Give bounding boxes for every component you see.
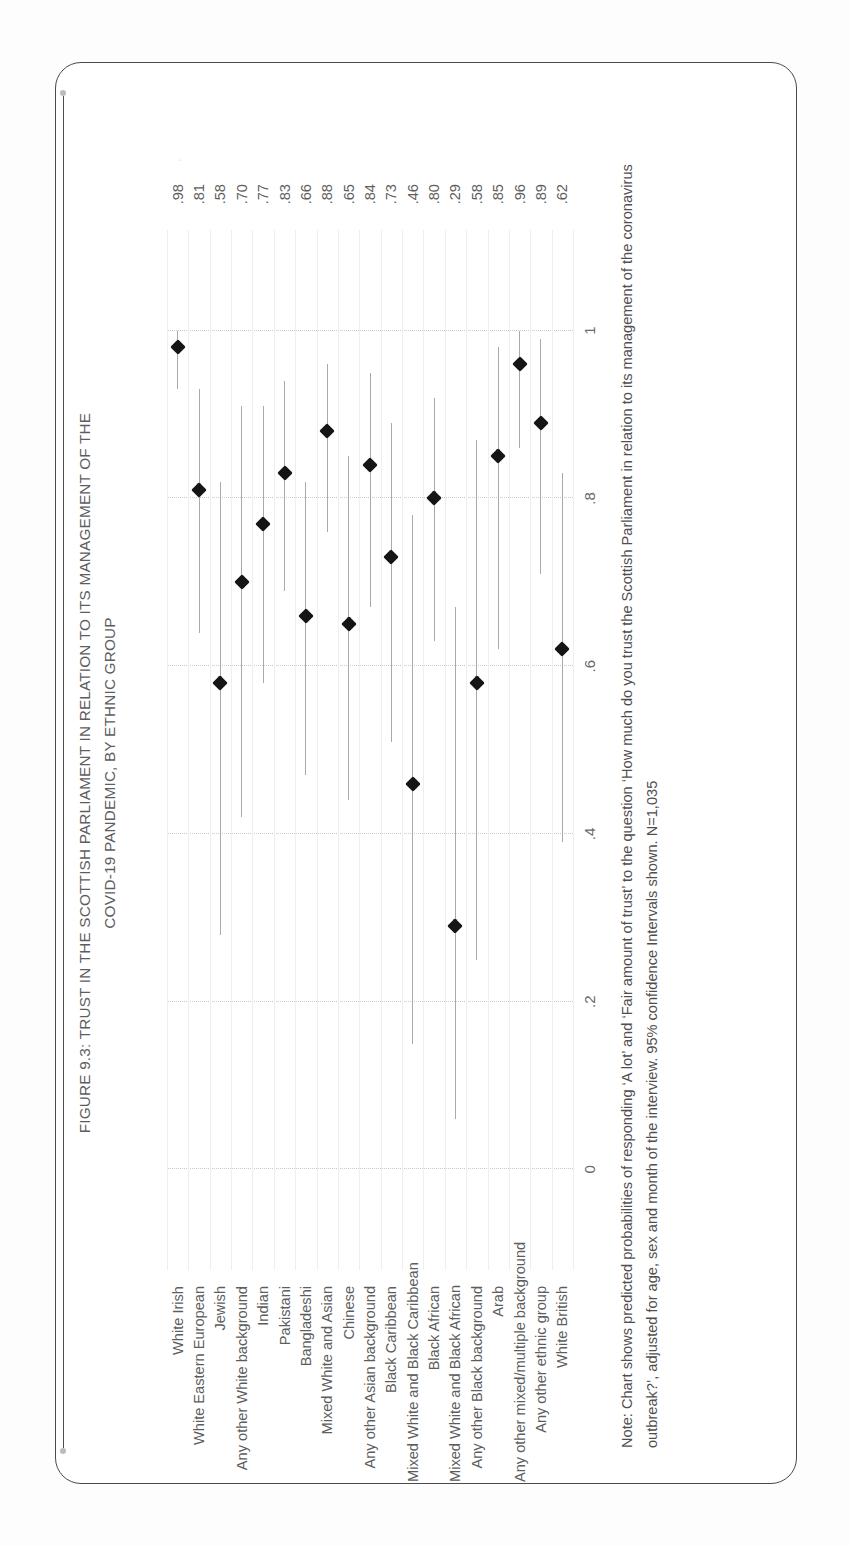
category-value-label: .96	[512, 184, 528, 224]
data-point-marker	[213, 675, 229, 691]
data-point-marker	[341, 616, 357, 632]
category-separator	[573, 230, 574, 1270]
category-label: White Eastern European	[191, 1286, 207, 1482]
category-value-label: .80	[426, 184, 442, 224]
confidence-interval	[498, 347, 499, 649]
data-point-marker	[362, 457, 378, 473]
data-point-marker	[426, 491, 442, 507]
category-value-label: .66	[298, 184, 314, 224]
category-value-label: .98	[170, 184, 186, 224]
gridline-.6	[167, 665, 573, 666]
category-label: Pakistani	[277, 1286, 293, 1482]
category-value-label: .58	[212, 184, 228, 224]
category-separator	[317, 230, 318, 1270]
page-corner-mark: ·	[173, 158, 185, 162]
category-label: Mixed White and Asian	[319, 1286, 335, 1482]
figure-title: FIGURE 9.3: TRUST IN THE SCOTTISH PARLIA…	[73, 98, 123, 1448]
rotated-figure-stage: FIGURE 9.3: TRUST IN THE SCOTTISH PARLIA…	[55, 62, 795, 1482]
category-label: Black Caribbean	[383, 1286, 399, 1482]
category-value-label: .65	[341, 184, 357, 224]
category-separator	[252, 230, 253, 1270]
data-point-marker	[384, 549, 400, 565]
category-label: Any other mixed/multiple background	[512, 1286, 528, 1482]
category-separator	[402, 230, 403, 1270]
confidence-interval	[519, 331, 520, 448]
figure-title-line1: FIGURE 9.3: TRUST IN THE SCOTTISH PARLIA…	[73, 98, 98, 1448]
category-value-label: .85	[490, 184, 506, 224]
category-separator	[274, 230, 275, 1270]
category-separator	[188, 230, 189, 1270]
confidence-interval	[476, 440, 477, 960]
data-point-marker	[533, 415, 549, 431]
confidence-interval	[562, 473, 563, 842]
category-value-label: .70	[234, 184, 250, 224]
confidence-interval	[305, 482, 306, 776]
axis-tick-label: 0	[581, 1165, 598, 1173]
category-value-label: .73	[383, 184, 399, 224]
confidence-interval	[241, 406, 242, 817]
gridline-.4	[167, 833, 573, 834]
bullet-dot-left-icon	[60, 1448, 66, 1454]
category-value-label: .83	[277, 184, 293, 224]
category-separator	[210, 230, 211, 1270]
category-separator	[445, 230, 446, 1270]
category-value-label: .88	[319, 184, 335, 224]
axis-tick-label: .2	[581, 995, 598, 1008]
data-point-marker	[319, 424, 335, 440]
category-separator	[338, 230, 339, 1270]
data-point-marker	[469, 675, 485, 691]
figure-note: Note: Chart shows predicted probabilitie…	[615, 148, 665, 1448]
data-point-marker	[555, 642, 571, 658]
confidence-interval	[199, 389, 200, 632]
figure-title-line2: COVID-19 PANDEMIC, BY ETHNIC GROUP	[98, 98, 123, 1448]
bullet-dot-right-icon	[60, 90, 66, 96]
data-point-marker	[298, 608, 314, 624]
category-value-label: .89	[533, 184, 549, 224]
gridline-0	[167, 1168, 573, 1169]
confidence-interval	[263, 406, 264, 683]
confidence-interval	[284, 381, 285, 591]
category-label: Any other Asian background	[362, 1286, 378, 1482]
data-point-marker	[191, 482, 207, 498]
data-point-marker	[234, 574, 250, 590]
figure-page: FIGURE 9.3: TRUST IN THE SCOTTISH PARLIA…	[0, 0, 850, 1546]
category-value-label: .62	[554, 184, 570, 224]
category-separator	[509, 230, 510, 1270]
data-point-marker	[512, 356, 528, 372]
confidence-interval	[327, 364, 328, 532]
dot-plot: 0.2.4.6.81	[167, 230, 573, 1270]
category-label: Mixed White and Black African	[447, 1286, 463, 1482]
confidence-interval	[434, 398, 435, 641]
category-label: Any other ethnic group	[533, 1286, 549, 1482]
data-point-marker	[490, 449, 506, 465]
category-value-label: .29	[447, 184, 463, 224]
title-rule	[63, 96, 64, 1448]
category-label: Arab	[490, 1286, 506, 1482]
category-separator	[530, 230, 531, 1270]
confidence-interval	[370, 373, 371, 608]
gridline-.2	[167, 1001, 573, 1002]
category-separator	[423, 230, 424, 1270]
category-label: Mixed White and Black Caribbean	[405, 1286, 421, 1482]
category-value-label: .77	[255, 184, 271, 224]
category-separator	[488, 230, 489, 1270]
category-separator	[231, 230, 232, 1270]
category-value-label: .58	[469, 184, 485, 224]
category-label: White British	[554, 1286, 570, 1482]
category-separator	[381, 230, 382, 1270]
data-point-marker	[405, 776, 421, 792]
data-point-marker	[255, 516, 271, 532]
category-label: Black African	[426, 1286, 442, 1482]
category-label: Jewish	[212, 1286, 228, 1482]
category-value-label: .84	[362, 184, 378, 224]
category-label: Any other Black background	[469, 1286, 485, 1482]
data-point-marker	[170, 340, 186, 356]
data-point-marker	[448, 918, 464, 934]
confidence-interval	[220, 482, 221, 935]
category-label: Any other White background	[234, 1286, 250, 1482]
data-point-marker	[277, 465, 293, 481]
confidence-interval	[540, 339, 541, 574]
gridline-1	[167, 330, 573, 331]
axis-tick-label: .6	[581, 660, 598, 673]
category-label: Bangladeshi	[298, 1286, 314, 1482]
